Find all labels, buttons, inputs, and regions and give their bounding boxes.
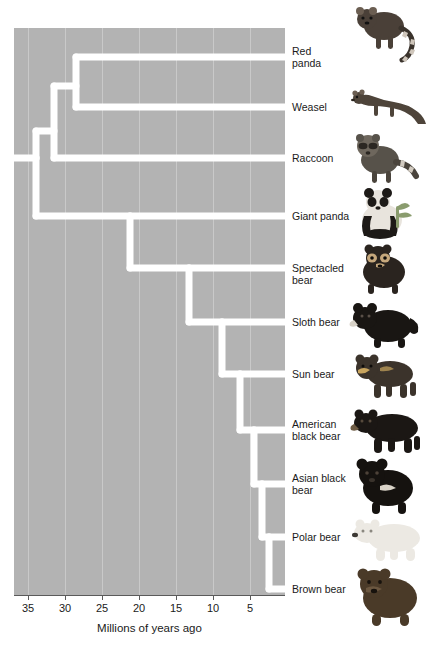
tip-label-line2: black bear: [292, 430, 350, 442]
tip-label-line1: Brown bear: [292, 583, 350, 595]
tip-label-line1: Polar bear: [292, 531, 350, 543]
polar-bear-photo: [348, 514, 432, 562]
tick-mark-30: [65, 595, 66, 600]
tick-mark-15: [176, 595, 177, 600]
tick-label-20: 20: [125, 602, 153, 614]
tick-label-5: 5: [236, 602, 264, 614]
tip-label-sloth-bear: Sloth bear: [292, 316, 350, 328]
brown-bear-photo: [348, 566, 432, 626]
tip-label-line1: Raccoon: [292, 152, 350, 164]
tip-label-line2: bear: [292, 484, 350, 496]
tip-label-brown-bear: Brown bear: [292, 583, 350, 595]
tick-label-25: 25: [88, 602, 116, 614]
tip-label-spectacled-bear: Spectacled bear: [292, 262, 356, 286]
tree-branches: [14, 28, 285, 595]
giant-panda-photo: [348, 188, 432, 244]
tip-label-weasel: Weasel: [292, 101, 350, 113]
sun-bear-photo: [348, 352, 432, 400]
tip-label-raccoon: Raccoon: [292, 152, 350, 164]
spectacled-bear-photo: [348, 244, 432, 294]
tick-mark-5: [250, 595, 251, 600]
tip-label-line1: Red: [292, 45, 350, 57]
tick-mark-25: [102, 595, 103, 600]
tip-label-giant-panda: Giant panda: [292, 210, 350, 222]
tip-label-sun-bear: Sun bear: [292, 368, 350, 380]
tree-plot-area: [14, 28, 285, 595]
phylogenetic-tree-figure: 35 30 25 20 15 10 5 Millions of years ag…: [0, 0, 442, 654]
tick-mark-10: [213, 595, 214, 600]
tip-label-asian-black-bear: Asian black bear: [292, 472, 350, 496]
tick-mark-35: [28, 595, 29, 600]
tip-label-line2: panda: [292, 57, 350, 69]
tick-label-35: 35: [14, 602, 42, 614]
tick-label-15: 15: [162, 602, 190, 614]
tip-label-line1: Spectacled bear: [292, 262, 356, 286]
tip-label-polar-bear: Polar bear: [292, 531, 350, 543]
tick-label-10: 10: [199, 602, 227, 614]
tip-label-line1: American: [292, 418, 350, 430]
tip-label-line1: Giant panda: [292, 210, 350, 222]
tip-label-american-black-bear: American black bear: [292, 418, 350, 442]
sloth-bear-photo: [348, 300, 432, 348]
tip-label-line1: Asian black: [292, 472, 350, 484]
red-panda-photo: [348, 2, 432, 64]
tip-label-red-panda: Red panda: [292, 45, 350, 69]
raccoon-photo: [348, 130, 432, 186]
tip-label-line1: Weasel: [292, 101, 350, 113]
x-axis-line: [14, 595, 285, 596]
x-axis-title: Millions of years ago: [14, 622, 285, 634]
asian-black-bear-photo: [348, 458, 432, 514]
tip-label-line1: Sun bear: [292, 368, 350, 380]
tip-label-line1: Sloth bear: [292, 316, 350, 328]
weasel-photo: [348, 84, 432, 128]
american-black-bear-photo: [348, 404, 432, 454]
tick-label-30: 30: [51, 602, 79, 614]
tick-mark-20: [139, 595, 140, 600]
